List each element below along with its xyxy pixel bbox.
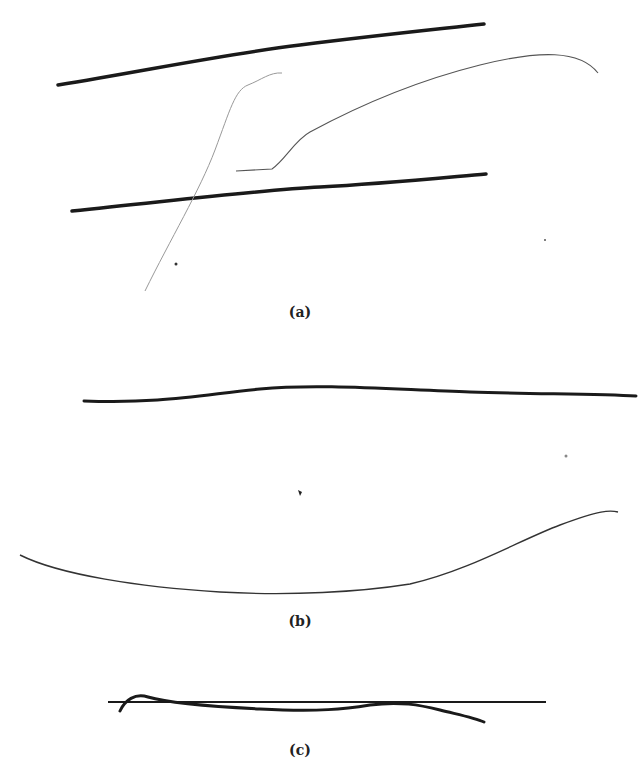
panel-c-strokes xyxy=(108,696,546,722)
panel-label-c: (c) xyxy=(270,742,330,758)
thick-line-top xyxy=(58,24,484,85)
panel-label-b: (b) xyxy=(270,613,330,629)
twisted-line xyxy=(120,696,484,722)
label-text-b: (b) xyxy=(288,613,311,629)
speck xyxy=(298,490,302,496)
panel-label-a: (a) xyxy=(270,304,330,320)
thick-wavy-line xyxy=(84,387,636,402)
label-text-a: (a) xyxy=(289,304,311,320)
speck xyxy=(565,455,568,458)
thick-line-bottom xyxy=(72,174,486,211)
thin-curve-left xyxy=(145,73,282,291)
label-text-c: (c) xyxy=(289,742,311,758)
figure-drawing xyxy=(0,0,640,774)
panel-b-strokes xyxy=(20,387,636,594)
speck xyxy=(175,263,178,266)
thin-curve xyxy=(20,511,618,593)
speck xyxy=(544,239,546,241)
panel-a-strokes xyxy=(58,24,598,291)
thin-curve-right xyxy=(236,55,598,171)
